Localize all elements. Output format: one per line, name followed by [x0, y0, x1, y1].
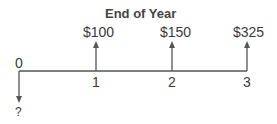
arrowhead-up-icon — [244, 41, 250, 48]
arrowhead-up-icon — [169, 41, 175, 48]
diagram-title: End of Year — [105, 6, 176, 21]
arrowhead-up-icon — [93, 41, 99, 48]
cash-flow-period-2: $150 — [160, 25, 191, 39]
period-label-1: 1 — [92, 75, 100, 89]
cash-flow-period-0: ? — [15, 105, 22, 119]
cash-flow-period-3: $325 — [233, 25, 264, 39]
period-label-0: 0 — [15, 56, 23, 70]
period-label-3: 3 — [243, 75, 251, 89]
period-label-2: 2 — [168, 75, 176, 89]
arrowhead-down-icon — [16, 96, 22, 103]
cash-flow-period-1: $100 — [83, 25, 114, 39]
